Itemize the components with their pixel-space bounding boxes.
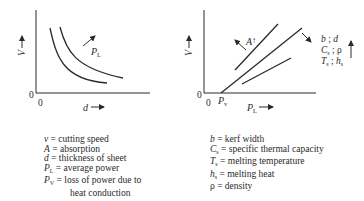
- absorption-label: A↑: [245, 36, 256, 47]
- x-intercept-label: Pv: [217, 95, 228, 107]
- svg-text:Ts ; hs: Ts ; hs: [321, 56, 344, 67]
- left-graph: PL V 0 0 d: [16, 10, 150, 113]
- svg-text:Cs ; ρ: Cs ; ρ: [321, 45, 342, 56]
- svg-text:V: V: [16, 48, 27, 56]
- left-origin-y: 0: [29, 90, 34, 100]
- parameter-annotation: b ; d Cs ; ρ Ts ; hs: [321, 34, 351, 67]
- legend-item-continuation: heat conduction: [44, 189, 141, 199]
- right-x-axis-label: PL: [246, 102, 273, 114]
- svg-text:PL: PL: [246, 102, 257, 114]
- svg-text:V: V: [183, 48, 194, 56]
- legend-item: ρ = density: [210, 182, 324, 192]
- left-y-axis-label: V: [16, 36, 27, 56]
- right-graph: A↑ b ; d Cs ; ρ Ts ; hs V 0 0 Pv PL: [183, 10, 351, 114]
- power-increase-arrow: [83, 36, 95, 46]
- left-x-axis-label: d: [83, 102, 104, 113]
- parameter-arrow: [302, 33, 311, 42]
- right-origin-y: 0: [197, 90, 202, 100]
- right-line-high-absorption: [235, 24, 278, 70]
- svg-text:b ; d: b ; d: [321, 34, 338, 44]
- svg-text:d: d: [83, 102, 89, 113]
- right-origin-x: 0: [206, 98, 211, 108]
- power-label-left: PL: [90, 46, 101, 58]
- right-y-axis-label: V: [183, 36, 194, 56]
- left-origin-x: 0: [38, 98, 43, 108]
- legend-left: v = cutting speed A = absorption d = thi…: [44, 135, 141, 199]
- absorption-arrow: [235, 40, 246, 50]
- right-line-reference: [221, 28, 302, 93]
- legend-right: b = kerf width Cs = specific thermal cap…: [210, 135, 324, 192]
